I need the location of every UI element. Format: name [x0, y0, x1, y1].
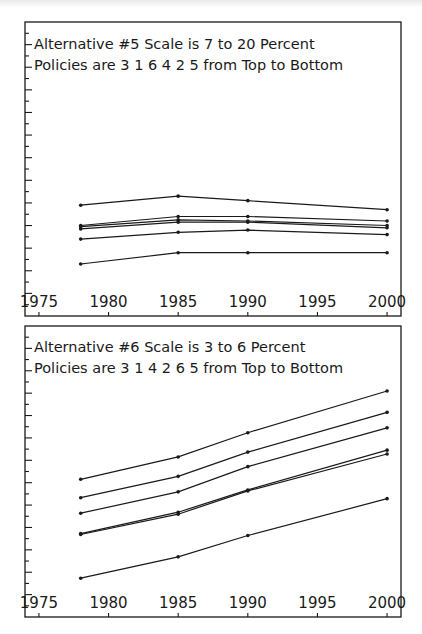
chart-title: Alternative #6 Scale is 3 to 6 Percent	[34, 339, 306, 355]
data-point-marker	[385, 411, 389, 415]
data-point-marker	[176, 555, 180, 559]
data-point-marker	[385, 389, 389, 393]
series-policy-3	[79, 389, 389, 481]
data-point-marker	[385, 426, 389, 430]
data-point-marker	[79, 496, 83, 500]
x-tick-label: 1995	[298, 594, 336, 612]
x-tick-label: 1990	[229, 594, 267, 612]
x-tick-label: 1975	[20, 594, 58, 612]
data-point-marker	[176, 512, 180, 516]
x-axis-tick-labels: 197519801985199019952000	[20, 594, 406, 612]
data-point-marker	[246, 465, 250, 469]
data-point-marker	[176, 455, 180, 459]
data-point-marker	[246, 489, 250, 493]
series-policy-1	[79, 411, 389, 500]
x-tick-label: 2000	[368, 594, 406, 612]
data-series	[79, 389, 389, 580]
chart-svg-2: Alternative #6 Scale is 3 to 6 Percent P…	[0, 0, 422, 634]
chart-panel-alternative-6: Alternative #6 Scale is 3 to 6 Percent P…	[0, 0, 422, 634]
data-point-marker	[176, 475, 180, 479]
series-policy-4	[79, 426, 389, 515]
data-point-marker	[385, 448, 389, 452]
data-point-marker	[79, 576, 83, 580]
chart-subtitle: Policies are 3 1 4 2 6 5 from Top to Bot…	[34, 360, 343, 376]
x-tick-label: 1985	[159, 594, 197, 612]
data-point-marker	[246, 431, 250, 435]
data-point-marker	[246, 450, 250, 454]
series-policy-2	[79, 448, 389, 535]
x-tick-label: 1980	[89, 594, 127, 612]
data-point-marker	[79, 533, 83, 537]
data-point-marker	[79, 477, 83, 481]
series-policy-5	[79, 497, 389, 580]
data-point-marker	[176, 490, 180, 494]
data-point-marker	[79, 511, 83, 515]
data-point-marker	[385, 452, 389, 456]
data-point-marker	[246, 534, 250, 538]
data-point-marker	[385, 497, 389, 501]
